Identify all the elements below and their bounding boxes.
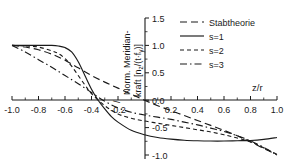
x-tick-label: 1.0 [271, 105, 284, 115]
y-tick-label: -0.5 [152, 123, 168, 133]
x-tick-label: 0.2 [165, 105, 178, 115]
chart-figure: -1.0-0.8-0.6-0.4-0.20.20.40.60.81.0 1.51… [0, 0, 289, 167]
y-axis-title-mid: /(t·f [133, 52, 143, 66]
x-tick-label: -0.8 [31, 105, 47, 115]
y-tick-label: 1.0 [152, 41, 165, 51]
legend-label-s-2: s=2 [209, 46, 224, 56]
x-tick-label: -0.4 [84, 105, 100, 115]
y-tick-label: 0.5 [152, 68, 165, 78]
x-tick-label: -1.0 [4, 105, 20, 115]
x-tick-label: 0.8 [244, 105, 257, 115]
x-axis-title: z/r [252, 82, 263, 93]
x-tick-label: 0.4 [191, 105, 204, 115]
y-tick-label: -1.0 [152, 151, 168, 161]
line-chart-canvas: -1.0-0.8-0.6-0.4-0.20.20.40.60.81.0 1.51… [0, 0, 289, 167]
y-axis-title-suffix: )] [133, 44, 143, 50]
legend-label-s-1: s=1 [209, 32, 224, 42]
y-axis-title-line1: Norm. Meridian- [122, 30, 132, 95]
legend-label-stabtheorie: Stabtheorie [209, 18, 255, 28]
x-tick-label: 0.6 [218, 105, 231, 115]
legend-label-s-3: s=3 [209, 60, 224, 70]
y-tick-label: 1.5 [152, 14, 165, 24]
x-tick-label: -0.6 [57, 105, 73, 115]
y-axis-title-prefix: kraft [n [133, 69, 143, 97]
